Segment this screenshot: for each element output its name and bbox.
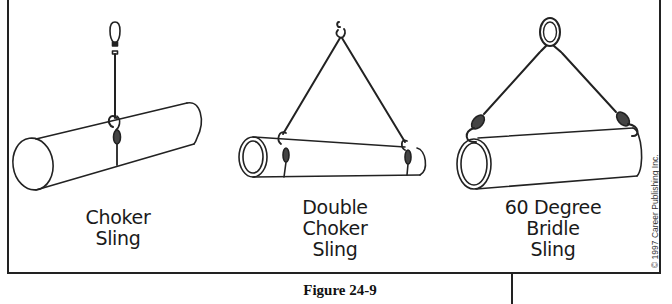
label-line: Choker	[73, 207, 163, 228]
bridle-sling-illustration	[457, 18, 642, 189]
figure-caption: Figure 24-9	[255, 282, 425, 299]
label-line: Sling	[73, 228, 163, 249]
label-line: Choker	[285, 218, 385, 239]
choker-wire-icon	[109, 22, 121, 165]
label-line: Sling	[493, 239, 613, 260]
pipe-icon	[239, 137, 425, 177]
choker-sling-label: Choker Sling	[73, 207, 163, 249]
label-line: Bridle	[493, 218, 613, 239]
pipe-icon	[457, 128, 642, 189]
bridle-wires-icon	[467, 18, 638, 142]
choker-sling-illustration	[10, 22, 202, 193]
double-choker-sling-label: Double Choker Sling	[285, 197, 385, 260]
label-line: Double	[285, 197, 385, 218]
label-line: 60 Degree	[493, 197, 613, 218]
double-choker-sling-illustration	[239, 22, 425, 177]
double-choker-wires-icon	[279, 22, 411, 177]
pipe-icon	[10, 103, 202, 193]
copyright-notice: © 1997 Career Publishing Inc.	[650, 154, 660, 268]
bridle-sling-label: 60 Degree Bridle Sling	[493, 197, 613, 260]
label-line: Sling	[285, 239, 385, 260]
